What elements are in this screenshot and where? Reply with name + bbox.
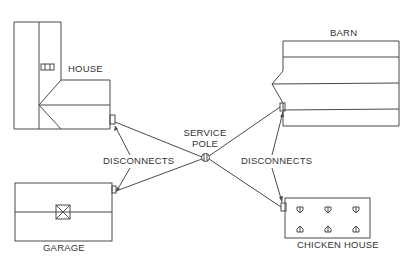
fixture-icons-bottom-row	[297, 226, 359, 232]
arrow-to-barn-disconnect	[272, 112, 283, 155]
pendant-fixture-icon	[325, 207, 331, 213]
service-pole-label-line1: SERVICE	[184, 127, 227, 138]
service-pole-label-line2: POLE	[192, 138, 218, 149]
service-pole: SERVICE POLE	[184, 127, 227, 162]
house-disconnect-box	[110, 115, 115, 124]
disconnects-label-left: DISCONNECTS	[103, 155, 174, 166]
garage-disconnect-box	[112, 186, 116, 193]
barn-label: BARN	[330, 27, 357, 38]
arrowhead-icon	[279, 196, 283, 202]
house-label: HOUSE	[68, 63, 103, 74]
barn-line-3	[283, 109, 399, 110]
garage: GARAGE	[15, 183, 116, 253]
disconnects-label-right: DISCONNECTS	[241, 155, 312, 166]
window-icon	[41, 64, 54, 70]
barn: BARN	[272, 27, 399, 126]
house: HOUSE	[14, 22, 115, 129]
pendant-fixture-icon	[297, 226, 303, 232]
pendant-fixture-icon	[353, 207, 359, 213]
garage-label: GARAGE	[43, 242, 85, 253]
pendant-fixture-icon	[325, 226, 331, 232]
fixture-icons-top-row	[297, 207, 359, 213]
barn-ridge	[272, 83, 399, 84]
farm-wiring-diagram: HOUSE BARN GARAGE	[0, 0, 409, 261]
house-outline	[14, 22, 110, 129]
arrow-to-house-disconnect	[115, 126, 130, 155]
line-pole-to-chicken-house	[209, 159, 281, 207]
pendant-fixture-icon	[353, 226, 359, 232]
chicken-house-label: CHICKEN HOUSE	[297, 239, 379, 250]
chicken-house: CHICKEN HOUSE	[281, 198, 379, 250]
pole-icon	[202, 154, 210, 162]
pendant-fixture-icon	[297, 207, 303, 213]
house-roof-hip-upper	[39, 80, 61, 105]
house-roof-hip-lower	[39, 105, 61, 129]
